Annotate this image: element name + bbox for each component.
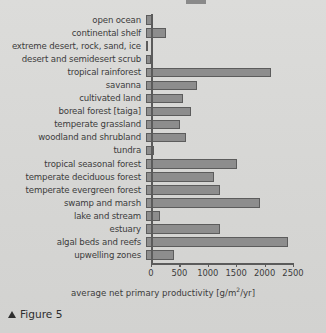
chart-row: woodland and shrubland [0,131,326,144]
x-axis-line [151,263,293,265]
bar-track [146,118,326,131]
category-label: algal beds and reefs [0,238,146,247]
category-label: upwelling zones [0,251,146,260]
category-label: lake and stream [0,212,146,221]
category-label: continental shelf [0,29,146,38]
category-label: woodland and shrubland [0,133,146,142]
bar [146,224,220,234]
bar-track [146,27,326,40]
chart-row: continental shelf [0,27,326,40]
category-label: boreal forest [taiga] [0,107,146,116]
category-label: open ocean [0,16,146,25]
bar-track [146,197,326,210]
figure-caption-label: Figure 5 [20,308,62,320]
category-label: tropical rainforest [0,68,146,77]
bar-track [146,79,326,92]
bar-track [146,14,326,27]
bar-track [146,131,326,144]
chart-row: swamp and marsh [0,197,326,210]
bar-track [146,158,326,171]
bar-track [146,223,326,236]
bar [146,81,197,91]
bar-track [146,236,326,249]
bar [146,198,260,208]
bar-track [146,40,326,53]
chart-row: savanna [0,79,326,92]
bar-track [146,249,326,262]
x-axis-tick [179,263,180,267]
category-label: tropical seasonal forest [0,160,146,169]
bar-track [146,53,326,66]
bar [146,185,220,195]
bar [146,237,288,247]
x-axis-tick [236,263,237,267]
triangle-icon [8,311,16,318]
chart-row: desert and semidesert scrub [0,53,326,66]
bar-track [146,210,326,223]
bar [146,159,237,169]
chart-row: open ocean [0,14,326,27]
bar [146,68,271,78]
category-label: swamp and marsh [0,199,146,208]
x-axis-caption-main: average net primary productivity [g/m [71,288,236,298]
bar-track [146,184,326,197]
category-label: tundra [0,146,146,155]
category-label: extreme desert, rock, sand, ice [0,42,146,51]
x-axis-tick-label: 1500 [226,268,247,278]
bar [146,146,154,156]
category-label: temperate evergreen forest [0,186,146,195]
cropped-title-remnant [186,0,206,4]
y-axis-line [151,14,153,264]
x-axis-caption-tail: /yr] [240,288,255,298]
chart-row: estuary [0,223,326,236]
bar-track [146,66,326,79]
x-axis-tick [265,263,266,267]
x-axis-tick-label: 1000 [197,268,218,278]
chart-row: extreme desert, rock, sand, ice [0,40,326,53]
x-axis-tick-label: 2000 [254,268,275,278]
x-axis-caption: average net primary productivity [g/m2/y… [0,288,326,299]
chart-row: tundra [0,144,326,157]
bar [146,211,160,221]
x-axis-tick [151,263,152,267]
x-axis-tick [208,263,209,267]
bar-track [146,92,326,105]
bar-track [146,171,326,184]
x-axis-tick [293,263,294,267]
chart-row: temperate evergreen forest [0,184,326,197]
plot-area: open oceancontinental shelfextreme deser… [0,14,326,262]
chart-row: tropical rainforest [0,66,326,79]
x-axis-tick-label: 2500 [282,268,303,278]
bar [146,107,191,117]
chart-row: boreal forest [taiga] [0,105,326,118]
chart-row: upwelling zones [0,249,326,262]
bar-track [146,144,326,157]
category-label: temperate deciduous forest [0,173,146,182]
chart-row: tropical seasonal forest [0,158,326,171]
category-label: estuary [0,225,146,234]
x-axis-tick-label: 500 [171,268,187,278]
chart-row: cultivated land [0,92,326,105]
category-label: desert and semidesert scrub [0,55,146,64]
x-axis-tick-label: 0 [148,268,153,278]
figure-5-chart: open oceancontinental shelfextreme deser… [0,0,326,333]
chart-row: temperate grassland [0,118,326,131]
bar [146,172,214,182]
chart-row: algal beds and reefs [0,236,326,249]
bar [146,41,148,51]
category-label: cultivated land [0,94,146,103]
chart-row: lake and stream [0,210,326,223]
category-label: temperate grassland [0,120,146,129]
bar-track [146,105,326,118]
category-label: savanna [0,81,146,90]
chart-row: temperate deciduous forest [0,171,326,184]
bar [146,28,166,38]
figure-caption: Figure 5 [8,308,62,320]
